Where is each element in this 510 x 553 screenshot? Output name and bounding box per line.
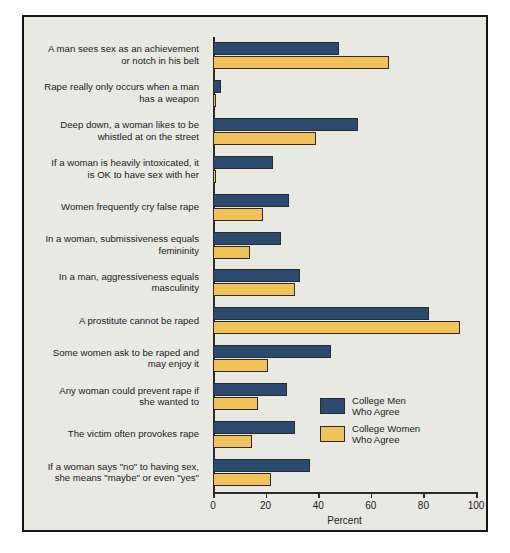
x-tick — [266, 492, 268, 498]
bar-men — [213, 269, 300, 282]
x-tick-label: 60 — [365, 500, 376, 511]
bar-women — [213, 359, 268, 372]
bar-women — [213, 246, 250, 259]
bar-men — [213, 345, 331, 358]
x-tick-label: 100 — [468, 500, 485, 511]
x-tick-label: 80 — [418, 500, 429, 511]
bar-men — [213, 118, 358, 131]
legend-item-women: College Women Who Agree — [320, 423, 420, 445]
bar-men — [213, 421, 295, 434]
bar-row: In a man, aggressiveness equalsmasculini… — [24, 265, 486, 303]
x-tick-label: 40 — [313, 500, 324, 511]
bar-men — [213, 383, 287, 396]
x-axis-line — [213, 492, 476, 494]
x-tick — [318, 492, 320, 498]
x-tick — [371, 492, 373, 498]
legend-item-men: College Men Who Agree — [320, 395, 420, 417]
bar-men — [213, 459, 310, 472]
bar-men — [213, 42, 339, 55]
category-label: A prostitute cannot be raped — [27, 315, 199, 327]
legend-swatch-men — [320, 398, 345, 414]
bar-men — [213, 194, 289, 207]
bar-row: Some women ask to be raped andmay enjoy … — [24, 340, 486, 378]
category-label: In a man, aggressiveness equalsmasculini… — [27, 271, 199, 294]
category-label: In a woman, submissiveness equalsfeminin… — [27, 233, 199, 256]
category-label: Any woman could prevent rape ifshe wante… — [27, 385, 199, 408]
chart-frame: A man sees sex as an achievementor notch… — [22, 15, 488, 532]
x-tick — [476, 492, 478, 498]
category-label: The victim often provokes rape — [27, 428, 199, 440]
category-label: If a woman says "no" to having sex,she m… — [27, 461, 199, 484]
bar-women — [213, 170, 216, 183]
bar-women — [213, 56, 389, 69]
bar-row: Rape really only occurs when a manhas a … — [24, 75, 486, 113]
x-tick — [213, 492, 215, 498]
x-axis-title: Percent — [213, 515, 476, 526]
bar-men — [213, 80, 221, 93]
legend-label-men: College Men Who Agree — [352, 395, 406, 417]
x-tick — [423, 492, 425, 498]
bar-row: In a woman, submissiveness equalsfeminin… — [24, 227, 486, 265]
legend-swatch-women — [320, 426, 345, 442]
bar-row: A prostitute cannot be raped — [24, 302, 486, 340]
category-label: A man sees sex as an achievementor notch… — [27, 43, 199, 66]
category-label: If a woman is heavily intoxicated, itis … — [27, 157, 199, 180]
bar-men — [213, 156, 273, 169]
x-tick-label: 20 — [260, 500, 271, 511]
category-label: Deep down, a woman likes to bewhistled a… — [27, 119, 199, 142]
bar-row: Deep down, a woman likes to bewhistled a… — [24, 113, 486, 151]
bar-women — [213, 208, 263, 221]
bar-row: If a woman is heavily intoxicated, itis … — [24, 151, 486, 189]
bar-women — [213, 397, 258, 410]
bar-row: If a woman says "no" to having sex,she m… — [24, 454, 486, 492]
bar-row: Women frequently cry false rape — [24, 189, 486, 227]
bar-women — [213, 132, 316, 145]
category-label: Some women ask to be raped andmay enjoy … — [27, 347, 199, 370]
bar-women — [213, 283, 295, 296]
bar-women — [213, 94, 216, 107]
bar-women — [213, 321, 460, 334]
bar-men — [213, 307, 429, 320]
bar-men — [213, 232, 281, 245]
bar-women — [213, 473, 271, 486]
bar-row: A man sees sex as an achievementor notch… — [24, 37, 486, 75]
legend-label-women: College Women Who Agree — [352, 423, 420, 445]
category-label: Women frequently cry false rape — [27, 201, 199, 213]
category-label: Rape really only occurs when a manhas a … — [27, 81, 199, 104]
x-tick-label: 0 — [210, 500, 216, 511]
bar-women — [213, 435, 252, 448]
chart-legend: College Men Who Agree College Women Who … — [320, 395, 420, 451]
